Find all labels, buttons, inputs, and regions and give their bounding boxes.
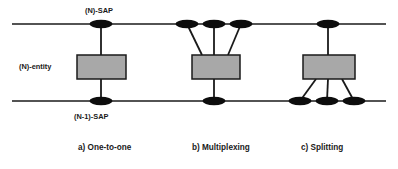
panel-one-to-one xyxy=(77,20,126,105)
caption-splitting: c) Splitting xyxy=(301,144,343,152)
connector-top-right xyxy=(228,24,241,55)
sap-marker-top xyxy=(317,20,340,28)
entity-box-a xyxy=(77,55,126,79)
sap-marker-bottom-right xyxy=(343,97,366,105)
panel-splitting xyxy=(289,20,366,105)
connector-top-left xyxy=(187,24,202,55)
caption-one-to-one: a) One-to-one xyxy=(78,144,131,152)
sap-marker-bottom xyxy=(90,97,113,105)
sap-marker-top-right xyxy=(230,20,253,28)
label-n1-sap: (N-1)-SAP xyxy=(74,113,109,120)
sap-marker-bottom-center xyxy=(316,97,339,105)
panel-multiplexing xyxy=(176,20,253,105)
sap-marker-bottom xyxy=(203,97,226,105)
entity-box-c xyxy=(303,55,355,79)
sap-marker-top-center xyxy=(203,20,226,28)
label-n-entity: (N)-entity xyxy=(19,63,51,70)
sap-marker-bottom-left xyxy=(289,97,312,105)
entity-box-b xyxy=(192,55,240,79)
label-n-sap: (N)-SAP xyxy=(85,7,113,14)
caption-multiplexing: b) Multiplexing xyxy=(192,144,250,152)
sap-marker-top-left xyxy=(176,20,199,28)
sap-marker-top xyxy=(90,20,113,28)
figure-canvas: (N)-SAP (N-1)-SAP (N)-entity a) One-to-o… xyxy=(0,0,398,169)
